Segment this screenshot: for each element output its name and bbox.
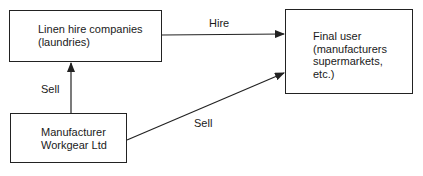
node-manufacturer: Manufacturer Workgear Ltd	[10, 113, 127, 163]
hire-arrow	[162, 34, 284, 35]
node-label: Manufacturer Workgear Ltd	[41, 126, 107, 151]
edge-label-sell-to-final: Sell	[194, 117, 212, 129]
edge-label-hire: Hire	[209, 17, 229, 29]
sell-diagonal-arrow	[127, 73, 284, 140]
node-linen-hire-companies: Linen hire companies (laundries)	[9, 10, 162, 62]
node-label: Linen hire companies (laundries)	[38, 23, 143, 48]
edge-label-sell-to-linen: Sell	[41, 83, 59, 95]
node-label: Final user (manufacturers supermarkets, …	[313, 30, 387, 80]
node-final-user: Final user (manufacturers supermarkets, …	[285, 9, 413, 94]
